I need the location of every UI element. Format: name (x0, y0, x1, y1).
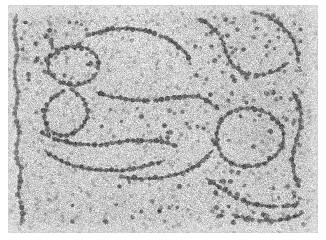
micrograph-figure (0, 0, 326, 240)
electron-micrograph-canvas (8, 5, 318, 233)
micrograph-image-area (8, 5, 318, 233)
